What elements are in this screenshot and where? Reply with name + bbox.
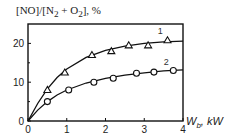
triangle-marker — [44, 86, 51, 92]
series-1-curve — [28, 41, 183, 121]
circle-marker — [66, 87, 72, 93]
triangle-marker — [61, 69, 68, 75]
x-tick-label: 4 — [180, 124, 186, 135]
series-1-label: 1 — [158, 26, 163, 36]
x-tick-label: 0 — [25, 124, 31, 135]
line-chart: 012340102012 — [0, 0, 226, 139]
y-tick-label: 0 — [18, 116, 24, 127]
y-tick-label: 10 — [13, 77, 25, 88]
circle-marker — [44, 99, 50, 105]
series-2-label: 2 — [164, 57, 169, 67]
plot-frame — [28, 24, 183, 121]
circle-marker — [91, 79, 97, 85]
circle-marker — [110, 75, 116, 81]
x-tick-label: 2 — [103, 124, 109, 135]
x-tick-label: 3 — [141, 124, 147, 135]
circle-marker — [134, 70, 140, 76]
series-2-curve — [28, 70, 183, 121]
circle-marker — [170, 68, 176, 74]
circle-marker — [151, 69, 157, 75]
y-tick-label: 20 — [13, 38, 25, 49]
triangle-marker — [164, 37, 171, 43]
x-tick-label: 1 — [64, 124, 70, 135]
